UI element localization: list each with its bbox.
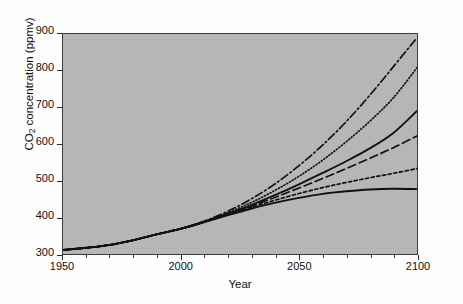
x-axis-title: Year (62, 278, 418, 290)
x-minor-tick (371, 255, 372, 258)
y-tick-label: 400 (36, 210, 54, 221)
y-axis-title-suffix: concentration (ppmv) (23, 17, 35, 128)
y-axis-title-prefix: CO (23, 133, 35, 150)
plot-area (62, 33, 418, 255)
series-line-5 (63, 189, 417, 250)
x-minor-tick (347, 255, 348, 258)
y-tick-label: 800 (36, 62, 54, 73)
x-tick-label: 1950 (50, 261, 74, 272)
y-axis-title-subscript: 2 (27, 129, 37, 134)
x-tick-label: 2050 (287, 261, 311, 272)
x-minor-tick (276, 255, 277, 258)
series-line-3 (63, 136, 417, 250)
x-minor-tick (157, 255, 158, 258)
figure-container: 300400500600700800900 CO2 concentration … (0, 0, 463, 304)
y-tick-label: 900 (36, 25, 54, 36)
x-tick-label: 2000 (168, 261, 192, 272)
series-line-1 (63, 68, 417, 250)
y-tick-label: 300 (36, 247, 54, 258)
y-axis-title: CO2 concentration (ppmv) (23, 0, 35, 189)
series-line-0 (63, 38, 417, 250)
y-tick-label: 500 (36, 173, 54, 184)
y-tick-label: 700 (36, 99, 54, 110)
x-minor-tick (204, 255, 205, 258)
x-minor-tick (109, 255, 110, 258)
x-minor-tick (86, 255, 87, 258)
x-minor-tick (394, 255, 395, 258)
series-line-2 (63, 111, 417, 250)
x-minor-tick (252, 255, 253, 258)
curves-svg (63, 34, 417, 254)
x-minor-tick (228, 255, 229, 258)
x-tick-label: 2100 (406, 261, 430, 272)
y-tick-label: 600 (36, 136, 54, 147)
x-minor-tick (133, 255, 134, 258)
x-minor-tick (323, 255, 324, 258)
